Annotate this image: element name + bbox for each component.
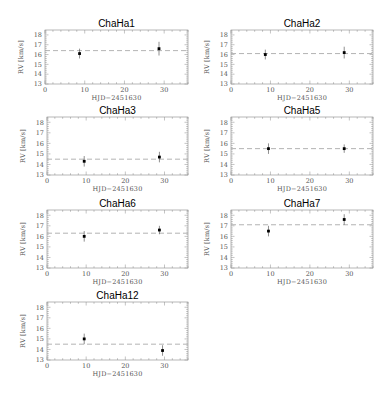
y-tick-label: 15 bbox=[36, 335, 44, 343]
panel-chaha1: ChaHa10102030131415161718HJD−2451630RV [… bbox=[17, 18, 188, 102]
y-axis-label: RV [km/s] bbox=[19, 129, 27, 163]
y-tick-label: 17 bbox=[220, 129, 228, 137]
y-tick-label: 14 bbox=[220, 70, 228, 78]
x-axis-label: HJD−2451630 bbox=[277, 278, 327, 286]
y-tick-label: 13 bbox=[36, 356, 44, 364]
x-tick-label: 20 bbox=[306, 270, 314, 278]
y-tick-label: 14 bbox=[36, 254, 44, 262]
x-tick-label: 30 bbox=[345, 177, 353, 185]
y-axis-label: RV [km/s] bbox=[19, 314, 27, 348]
y-tick-label: 14 bbox=[220, 161, 228, 169]
y-tick-label: 18 bbox=[220, 31, 228, 39]
x-tick-label: 0 bbox=[45, 177, 49, 185]
y-tick-label: 17 bbox=[34, 41, 42, 49]
data-point bbox=[83, 160, 86, 163]
y-tick-label: 15 bbox=[220, 243, 228, 251]
plot-frame bbox=[45, 30, 188, 84]
y-tick-label: 17 bbox=[36, 129, 44, 137]
y-tick-label: 17 bbox=[220, 41, 228, 49]
data-point bbox=[158, 156, 161, 159]
panel-title: ChaHa12 bbox=[96, 290, 139, 301]
y-tick-label: 18 bbox=[36, 212, 44, 220]
x-tick-label: 0 bbox=[229, 270, 233, 278]
panel-title: ChaHa5 bbox=[284, 105, 321, 116]
x-tick-label: 20 bbox=[121, 270, 129, 278]
y-tick-label: 16 bbox=[34, 51, 42, 59]
y-tick-label: 14 bbox=[34, 70, 42, 78]
x-tick-label: 20 bbox=[121, 362, 129, 370]
y-tick-label: 18 bbox=[220, 119, 228, 127]
x-tick-label: 30 bbox=[345, 86, 353, 94]
x-tick-label: 10 bbox=[266, 270, 274, 278]
y-tick-label: 16 bbox=[220, 140, 228, 148]
y-tick-label: 15 bbox=[34, 61, 42, 69]
x-tick-label: 20 bbox=[306, 177, 314, 185]
panel-title: ChaHa7 bbox=[284, 198, 321, 209]
x-axis-label: HJD−2451630 bbox=[277, 185, 327, 193]
x-tick-label: 0 bbox=[45, 362, 49, 370]
data-point bbox=[161, 349, 164, 352]
y-tick-label: 15 bbox=[220, 150, 228, 158]
plot-frame bbox=[47, 117, 188, 175]
x-tick-label: 30 bbox=[160, 270, 168, 278]
x-tick-label: 0 bbox=[229, 86, 233, 94]
y-tick-label: 13 bbox=[36, 264, 44, 272]
data-point bbox=[343, 218, 346, 221]
y-tick-label: 16 bbox=[220, 233, 228, 241]
x-axis-label: HJD−2451630 bbox=[92, 278, 142, 286]
panel-title: ChaHa2 bbox=[284, 18, 321, 29]
panel-chaha7: ChaHa70102030131415161718HJD−2451630RV [… bbox=[203, 198, 373, 286]
x-tick-label: 20 bbox=[121, 177, 129, 185]
data-point bbox=[343, 51, 346, 54]
y-axis-label: RV [km/s] bbox=[19, 222, 27, 256]
y-axis-label: RV [km/s] bbox=[203, 40, 211, 74]
data-point bbox=[267, 230, 270, 233]
data-point bbox=[158, 229, 161, 232]
x-tick-label: 10 bbox=[82, 270, 90, 278]
x-axis-label: HJD−2451630 bbox=[92, 370, 142, 378]
panel-chaha3: ChaHa30102030131415161718HJD−2451630RV [… bbox=[19, 105, 188, 193]
y-tick-label: 17 bbox=[36, 314, 44, 322]
data-point bbox=[78, 52, 81, 55]
x-tick-label: 30 bbox=[160, 362, 168, 370]
y-tick-label: 18 bbox=[36, 119, 44, 127]
plot-frame bbox=[231, 117, 373, 175]
x-tick-label: 30 bbox=[345, 270, 353, 278]
y-tick-label: 18 bbox=[220, 212, 228, 220]
x-axis-label: HJD−2451630 bbox=[91, 94, 141, 102]
x-tick-label: 0 bbox=[43, 86, 47, 94]
data-point bbox=[158, 47, 161, 50]
panel-chaha12: ChaHa120102030131415161718HJD−2451630RV … bbox=[19, 290, 188, 378]
plot-frame bbox=[47, 302, 188, 360]
panel-chaha2: ChaHa20102030131415161718HJD−2451630RV [… bbox=[203, 18, 373, 102]
y-tick-label: 18 bbox=[36, 304, 44, 312]
y-tick-label: 16 bbox=[220, 51, 228, 59]
y-tick-label: 18 bbox=[34, 31, 42, 39]
y-tick-label: 13 bbox=[36, 171, 44, 179]
x-tick-label: 30 bbox=[160, 177, 168, 185]
y-tick-label: 16 bbox=[36, 233, 44, 241]
rv-figure: ChaHa10102030131415161718HJD−2451630RV [… bbox=[0, 0, 390, 399]
y-tick-label: 13 bbox=[220, 264, 228, 272]
y-axis-label: RV [km/s] bbox=[17, 40, 25, 74]
data-point bbox=[264, 53, 267, 56]
y-tick-label: 14 bbox=[36, 161, 44, 169]
y-axis-label: RV [km/s] bbox=[203, 129, 211, 163]
y-tick-label: 15 bbox=[220, 61, 228, 69]
data-point bbox=[83, 235, 86, 238]
panel-chaha5: ChaHa50102030131415161718HJD−2451630RV [… bbox=[203, 105, 373, 193]
plot-frame bbox=[231, 30, 373, 84]
panel-title: ChaHa1 bbox=[98, 18, 135, 29]
y-tick-label: 14 bbox=[220, 254, 228, 262]
x-tick-label: 20 bbox=[120, 86, 128, 94]
x-axis-label: HJD−2451630 bbox=[277, 94, 327, 102]
x-axis-label: HJD−2451630 bbox=[92, 185, 142, 193]
x-tick-label: 10 bbox=[81, 86, 89, 94]
data-point bbox=[83, 338, 86, 341]
x-tick-label: 0 bbox=[229, 177, 233, 185]
plot-frame bbox=[231, 210, 373, 268]
x-tick-label: 30 bbox=[160, 86, 168, 94]
y-tick-label: 17 bbox=[220, 222, 228, 230]
y-tick-label: 13 bbox=[34, 80, 42, 88]
x-tick-label: 20 bbox=[306, 86, 314, 94]
